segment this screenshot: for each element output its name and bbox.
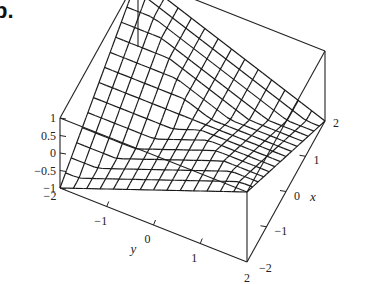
svg-text:x: x (309, 189, 316, 204)
svg-text:1: 1 (314, 153, 320, 167)
svg-text:1: 1 (50, 111, 56, 125)
svg-text:−0.5: −0.5 (34, 164, 56, 178)
svg-text:−2: −2 (44, 189, 57, 203)
svg-text:−1: −1 (275, 224, 288, 238)
surface-plot: 10.50−0.5−1−2−1012y−2−1012x (0, 0, 371, 284)
svg-text:2: 2 (244, 271, 250, 284)
svg-text:y: y (129, 241, 137, 256)
svg-text:1: 1 (191, 251, 197, 265)
svg-text:0.5: 0.5 (41, 129, 56, 143)
svg-text:−1: −1 (94, 214, 107, 228)
svg-text:0: 0 (145, 232, 151, 246)
svg-text:0: 0 (50, 146, 56, 160)
svg-text:2: 2 (333, 116, 339, 130)
svg-text:0: 0 (294, 189, 300, 203)
svg-text:−2: −2 (259, 261, 272, 275)
